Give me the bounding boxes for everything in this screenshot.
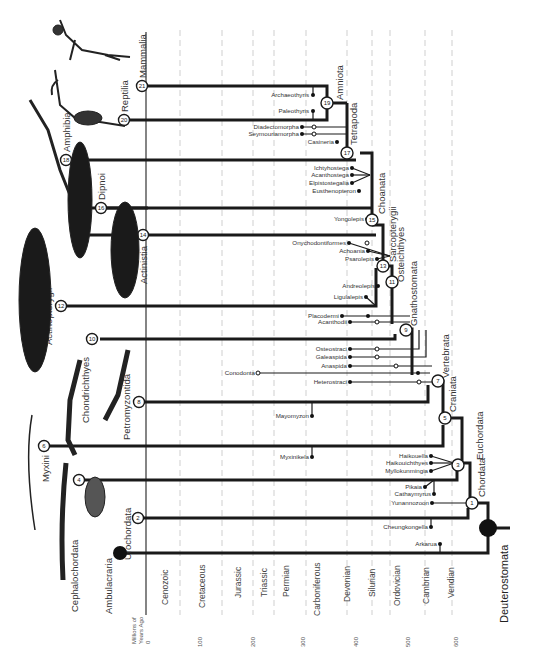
period-cretaceous: Cretaceous: [197, 565, 207, 608]
period-silurian: Silurian: [367, 568, 377, 597]
fossil-psarolepis: Psarolepis: [345, 255, 374, 262]
clade-gnathostomata: Gnathostomata: [408, 260, 419, 326]
svg-text:12: 12: [58, 303, 65, 309]
fossil-haikouella: Haikouella: [399, 452, 428, 459]
fossil-achoania: Achoania: [339, 247, 365, 254]
ray-finned-fish-icon: [19, 228, 51, 372]
group-reptilia: Reptilia: [119, 80, 130, 112]
fossil-eusthenopteron: Eusthenopteron: [312, 187, 356, 194]
svg-text:10: 10: [89, 336, 96, 342]
ambulacraria-node: [113, 546, 127, 560]
fossil-myllokunmingia: Myllokunmingia: [385, 467, 428, 474]
cladogram-figure: Cenozoic Cretaceous Jurassic Triassic Pe…: [0, 0, 541, 664]
fossil-mayomyzon: Mayomyzon: [276, 412, 310, 419]
tick-300: 300: [300, 636, 306, 647]
svg-text:18: 18: [63, 157, 70, 163]
svg-text:16: 16: [98, 205, 105, 211]
svg-text:17: 17: [344, 150, 351, 156]
tree-branches: [48, 86, 510, 553]
clade-tetrapoda: Tetrapoda: [348, 102, 359, 145]
fossil-acanthodii: Acanthodii: [318, 318, 347, 325]
fossil-myxinikela: Myxinikela: [280, 453, 309, 460]
clade-deuterostomata: Deuterostomata: [498, 544, 510, 623]
fossil-seymouriamorpha: Seymouriamorpha: [248, 130, 299, 137]
period-triassic: Triassic: [259, 567, 269, 597]
fossil-andreolepis: Andreolepis: [342, 282, 375, 289]
fossil-arkarua: Arkarua: [415, 540, 437, 547]
time-axis: Millions of Years Ago 0 100 200 300 400 …: [131, 616, 459, 647]
tick-200: 200: [250, 636, 256, 647]
root-node: [479, 519, 497, 537]
period-jurassic: Jurassic: [233, 566, 243, 598]
axis-label-line1: Millions of: [131, 617, 137, 644]
lancelet-icon: [62, 463, 66, 580]
fossil-ligulalepis: Ligulalepis: [334, 293, 363, 300]
svg-text:13: 13: [380, 263, 387, 269]
clade-osteichthyes: Osteichthyes: [395, 227, 406, 282]
group-chondrichthyes: Chondrichthyes: [80, 357, 91, 423]
fossil-acanthostega: Acanthostega: [311, 171, 349, 178]
group-myxini: Myxini: [40, 455, 51, 482]
lungfish-icon: [68, 142, 92, 258]
tick-100: 100: [197, 636, 203, 647]
period-vendian: Vendian: [446, 567, 456, 598]
group-dipnoi: Dipnoi: [96, 173, 107, 200]
group-mammalia: Mammalia: [137, 33, 148, 78]
period-carboniferous: Carboniferous: [312, 563, 322, 616]
group-cephalochordata: Cephalochordata: [69, 539, 80, 612]
tick-400: 400: [353, 636, 359, 647]
clade-choanata: Choanata: [376, 172, 387, 214]
tunicate-icon: [85, 477, 105, 517]
svg-text:15: 15: [369, 217, 376, 223]
fossil-paleothyris: Paleothyris: [278, 107, 309, 114]
fossil-elpistostegalia: Elpistostegalia: [309, 179, 349, 186]
fossil-conodonta: Conodonta: [225, 369, 256, 376]
tick-600: 600: [453, 636, 459, 647]
clade-vertebrata: Vertebrata: [440, 333, 451, 378]
fossil-onychodontiformes: Onychodontiformes: [292, 239, 346, 246]
svg-text:21: 21: [139, 83, 146, 89]
svg-text:20: 20: [121, 117, 128, 123]
fossil-haikouichthyes: Haikouichthyes: [386, 459, 428, 466]
fossil-ichtyhostega: Ichtyhostega: [314, 164, 350, 171]
period-cenozoic: Cenozoic: [160, 569, 170, 605]
hagfish-icon: [29, 415, 35, 530]
fossil-galeaspida: Galeaspida: [316, 353, 348, 360]
group-actinistia: Actinistia: [138, 245, 149, 284]
clade-euchordata: Euchordata: [474, 411, 485, 460]
period-labels: Cenozoic Cretaceous Jurassic Triassic Pe…: [160, 563, 456, 616]
clade-amniota: Amniota: [334, 64, 345, 100]
fossil-heterostraci: Heterostraci: [314, 378, 347, 385]
fossil-anaspida: Anaspida: [321, 362, 347, 369]
clade-craniata: Craniata: [447, 375, 458, 412]
fossil-yongolepis: Yongolepis: [334, 215, 364, 222]
clade-chordata: Chordata: [476, 457, 487, 497]
period-cambrian: Cambrian: [421, 567, 431, 604]
period-devonian: Devonian: [342, 566, 352, 602]
fossil-casineria: Casineria: [308, 138, 335, 145]
coelacanth-icon: [111, 202, 139, 298]
group-amphibia: Amphibia: [61, 112, 72, 152]
group-ambulacraria: Ambulacraria: [103, 557, 114, 614]
axis-label-line2: Years Ago: [138, 616, 144, 644]
tick-0: 0: [145, 640, 151, 644]
fossil-cheungkongella: Cheungkongella: [383, 523, 428, 530]
period-ordovician: Ordovician: [392, 565, 402, 606]
tick-500: 500: [405, 636, 411, 647]
fossil-osteostraci: Osteostraci: [316, 345, 347, 352]
shark-icon: [68, 360, 80, 455]
fossil-diadectomorpha: Diadectomorpha: [254, 123, 300, 130]
mammal-skeleton-icon: [53, 20, 130, 60]
fossil-pikaia: Pikaia: [405, 483, 422, 490]
period-permian: Permian: [281, 565, 291, 597]
svg-text:14: 14: [140, 232, 147, 238]
fossil-cathaymyrus: Cathaymyrus: [395, 490, 431, 497]
svg-text:19: 19: [324, 100, 331, 106]
fossil-branches: [256, 86, 468, 553]
fossil-yunannozoon: Yunannozoon: [391, 499, 429, 506]
fossil-archaeothyris: Archaeothyris: [271, 91, 309, 98]
